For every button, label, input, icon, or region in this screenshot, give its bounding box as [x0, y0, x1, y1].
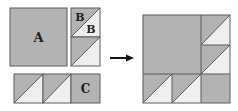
quilt-diagram: A B B C [0, 0, 238, 111]
piece-c-strip: C [14, 74, 100, 103]
arrow-right-icon [110, 55, 134, 62]
piece-c-label: C [81, 82, 91, 96]
piece-a-label: A [32, 30, 44, 45]
piece-b-light-label: B [86, 23, 95, 36]
piece-b-column: B B [71, 8, 100, 66]
piece-a: A [10, 8, 67, 66]
assembled-block [143, 15, 230, 103]
piece-b-dark-label: B [75, 11, 84, 24]
